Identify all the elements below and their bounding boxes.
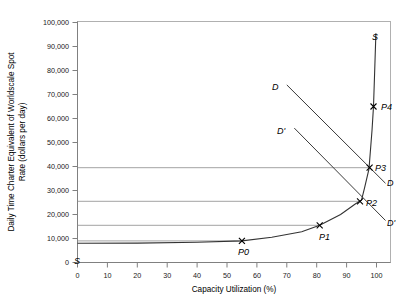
y-tick-label: 40,000 — [47, 162, 69, 171]
y-tick-label: 70,000 — [47, 90, 69, 99]
y-axis-title-line2: Rate (dollars per day) — [18, 102, 27, 181]
y-tick-label: 100,000 — [43, 18, 69, 27]
chart-svg: 0 10,000 20,000 30,000 40,000 50,000 60,… — [0, 0, 408, 303]
y-tick-label: 50,000 — [47, 138, 69, 147]
point-label-p2: P2 — [366, 198, 377, 208]
annotation-d-start: D — [272, 82, 279, 92]
point-label-p4: P4 — [381, 102, 392, 112]
y-tick-label: 0 — [65, 258, 69, 267]
y-tick-label: 10,000 — [47, 234, 69, 243]
x-tick-label: 90 — [343, 271, 351, 280]
y-tick-label: 20,000 — [47, 210, 69, 219]
x-tick-label: 20 — [133, 271, 141, 280]
y-tick-label: 90,000 — [47, 42, 69, 51]
point-label-p0: P0 — [238, 247, 249, 257]
x-tick-label: 50 — [223, 271, 231, 280]
point-label-p1: P1 — [319, 232, 330, 242]
x-tick-label: 30 — [163, 271, 171, 280]
y-tick-label: 30,000 — [47, 186, 69, 195]
chart-container: 0 10,000 20,000 30,000 40,000 50,000 60,… — [0, 0, 408, 303]
x-axis-title: Capacity Utilization (%) — [192, 285, 277, 294]
y-tick-label: 60,000 — [47, 114, 69, 123]
x-tick-label: 10 — [103, 271, 111, 280]
y-tick-label: 80,000 — [47, 66, 69, 75]
annotation-dprime-end: D' — [387, 218, 395, 228]
x-tick-label: 60 — [253, 271, 261, 280]
point-label-p3: P3 — [375, 163, 386, 173]
x-tick-label: 0 — [76, 271, 80, 280]
x-tick-label: 100 — [371, 271, 383, 280]
x-tick-label: 40 — [193, 271, 201, 280]
annotation-s-top: S — [372, 32, 378, 42]
x-tick-label: 70 — [283, 271, 291, 280]
annotation-d-end: D — [387, 178, 394, 188]
y-axis-title-line1: Daily Time Charter Equivalent of Worldsc… — [7, 52, 16, 232]
annotation-dprime-start: D' — [277, 126, 285, 136]
x-tick-label: 80 — [313, 271, 321, 280]
annotation-s-origin: S — [74, 256, 80, 266]
